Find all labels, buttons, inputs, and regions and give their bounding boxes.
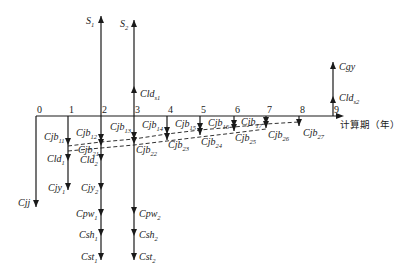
flow-label: Csh2	[139, 229, 159, 242]
flow-label: Cjb25	[235, 132, 257, 145]
flow-label: Cjb23	[168, 139, 190, 152]
arrowhead-down-icon	[98, 253, 104, 260]
axis-title: 计算期（年）	[340, 119, 400, 130]
flow-label: S1	[86, 15, 94, 28]
arrowhead-down-icon	[131, 207, 137, 214]
arrowhead-up-icon	[131, 86, 137, 93]
arrowhead-down-icon	[131, 137, 137, 144]
arrowhead-up-icon	[98, 16, 104, 23]
year-tick-label: 8	[300, 104, 305, 115]
year-ticks: 0123456789	[37, 104, 339, 115]
arrowhead-down-icon	[197, 128, 203, 135]
arrowhead-down-icon	[131, 229, 137, 236]
flow-label: S2	[120, 18, 129, 31]
year-tick-label: 6	[235, 104, 240, 115]
flow-label: Cld1	[47, 153, 65, 166]
time-axis	[36, 113, 344, 119]
arrowhead-down-icon	[98, 183, 104, 190]
arrowhead-down-icon	[131, 253, 137, 260]
arrowhead-up-icon	[330, 62, 336, 69]
flow-label: Clds2	[339, 92, 360, 105]
flow-label: Cjb24	[201, 136, 223, 149]
arrowheads	[33, 16, 336, 260]
year-tick-label: 4	[168, 104, 173, 115]
year-tick-label: 3	[135, 104, 140, 115]
arrowhead-down-icon	[65, 154, 71, 161]
flow-label: Cpw2	[139, 208, 161, 221]
flow-label: Cjb15	[175, 118, 197, 131]
flow-label: Cjb26	[268, 129, 290, 142]
arrowhead-up-icon	[330, 96, 336, 103]
arrowhead-down-icon	[98, 139, 104, 146]
arrowhead-down-icon	[98, 229, 104, 236]
flow-label: Cjb16	[208, 117, 230, 130]
flow-label: Cst2	[139, 251, 156, 264]
flow-label: Cjy2	[81, 182, 99, 195]
year-tick-label: 1	[69, 104, 74, 115]
flow-label: Cjj	[18, 197, 30, 208]
year-tick-label: 7	[267, 104, 272, 115]
flow-label: Cjb22	[136, 144, 158, 157]
arrowhead-up-icon	[131, 20, 137, 27]
year-tick-label: 9	[334, 104, 339, 115]
year-tick-label: 2	[102, 104, 107, 115]
flow-label: Cjb13	[110, 121, 132, 134]
flow-label: Cjb11	[44, 131, 64, 144]
year-tick-label: 0	[37, 104, 42, 115]
flow-label: Cjb14	[142, 119, 164, 132]
flow-label: Cjb12	[76, 127, 98, 140]
flow-label: Cst1	[81, 251, 98, 264]
arrowhead-down-icon	[65, 183, 71, 190]
flow-label: Csh1	[79, 229, 98, 242]
flow-label: Cgy	[339, 61, 356, 72]
year-tick-label: 5	[201, 104, 206, 115]
flow-label: Clds1	[140, 88, 160, 101]
flow-label: Cpw1	[76, 208, 98, 221]
arrowhead-down-icon	[98, 209, 104, 216]
arrowhead-down-icon	[65, 138, 71, 145]
arrowhead-down-icon	[33, 200, 39, 207]
flow-label: Cjb17	[241, 116, 263, 129]
diagram-canvas: 0123456789 S1S2Clds1CgyClds2Cjb11Cjb12Cj…	[0, 0, 408, 272]
arrowhead-down-icon	[164, 127, 170, 134]
flow-label: Cjy1	[48, 182, 65, 195]
cash-flow-diagram: 0123456789 S1S2Clds1CgyClds2Cjb11Cjb12Cj…	[0, 0, 408, 272]
flow-label: Cjb27	[303, 127, 325, 140]
